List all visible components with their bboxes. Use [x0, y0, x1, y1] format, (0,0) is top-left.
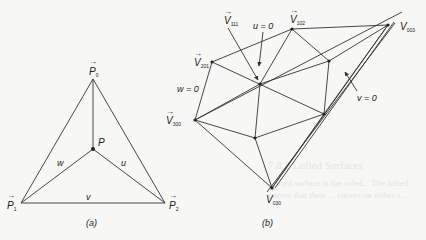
svg-text:w: w	[57, 158, 64, 168]
svg-text:P2: P2	[169, 200, 179, 212]
figure-a	[21, 79, 165, 203]
svg-text:V111: V111	[224, 15, 238, 27]
svg-text:u = 0: u = 0	[253, 21, 273, 31]
svg-text:(b): (b)	[262, 218, 273, 228]
svg-text:V102: V102	[290, 14, 305, 26]
svg-text:→: →	[7, 191, 15, 200]
svg-text:P0: P0	[89, 66, 99, 78]
svg-text:P1: P1	[7, 200, 17, 212]
svg-text:→: →	[194, 49, 202, 58]
svg-text:V030: V030	[266, 194, 281, 206]
svg-text:v: v	[86, 192, 91, 202]
svg-text:→: →	[89, 57, 97, 66]
svg-text:v = 0: v = 0	[357, 93, 377, 103]
svg-text:V003: V003	[400, 21, 415, 33]
svg-text:→: →	[169, 191, 177, 200]
figure-b-arrows	[228, 28, 357, 91]
svg-text:P: P	[98, 137, 105, 148]
svg-text:→: →	[290, 6, 298, 15]
svg-text:w = 0: w = 0	[177, 84, 199, 94]
svg-text:→: →	[224, 7, 232, 16]
svg-text:V201: V201	[194, 57, 209, 69]
svg-text:u: u	[121, 158, 126, 168]
figure-canvas: P0 → P1 → P2 → P w u v (a)	[0, 0, 426, 240]
svg-text:(a): (a)	[86, 218, 97, 228]
svg-text:V300: V300	[166, 115, 181, 127]
point-p	[91, 147, 95, 151]
svg-text:→: →	[166, 107, 174, 116]
